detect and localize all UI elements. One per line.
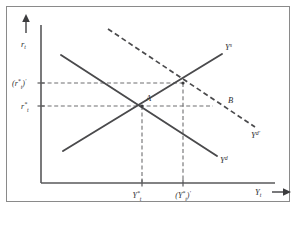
x-tick-label-Y-star: Y*t <box>133 190 142 202</box>
axis-group <box>41 25 275 183</box>
curve-label-demand-shifted: Yd' <box>251 130 261 140</box>
x-axis-arrow-icon <box>272 188 291 196</box>
y-axis-label: rt <box>21 39 26 50</box>
economics-diagram: rt Yt (r*t)' r*t Y*t (Y*t)' Ys Yd Yd' <box>7 7 291 203</box>
point-marker-new-equilibrium <box>181 81 184 84</box>
x-tick-label-Y-star-prime: (Y*t)' <box>175 190 191 202</box>
curve-label-demand: Yd <box>220 155 228 165</box>
y-tick-label-r-star: r*t <box>21 101 29 113</box>
figure-frame: rt Yt (r*t)' r*t Y*t (Y*t)' Ys Yd Yd' <box>6 6 290 202</box>
curve-supply <box>63 54 222 151</box>
y-axis-arrow-icon <box>22 14 30 33</box>
point-marker-A <box>140 104 143 107</box>
point-label-A: A <box>145 93 152 103</box>
x-axis-label: Yt <box>255 187 262 198</box>
point-label-B: B <box>228 95 233 105</box>
y-tick-label-r-star-prime: (r*t)' <box>12 78 27 90</box>
curve-label-supply: Ys <box>225 42 233 52</box>
caption-strip <box>6 206 290 226</box>
